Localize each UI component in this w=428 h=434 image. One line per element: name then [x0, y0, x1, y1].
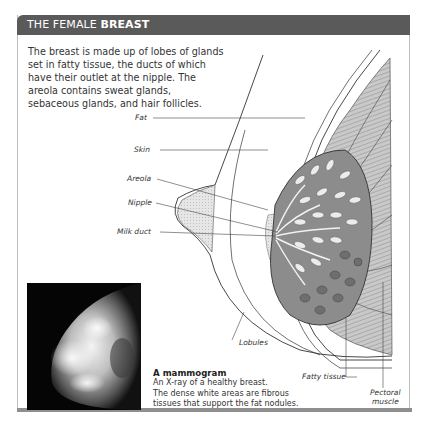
label-areola: Areola [127, 174, 151, 183]
label-milk-duct: Milk duct [117, 227, 151, 236]
caption-title: A mammogram [153, 368, 353, 378]
label-pectoral: Pectoral [370, 388, 401, 397]
label-skin: Skin [134, 145, 150, 154]
label-lobules: Lobules [239, 338, 268, 347]
mammogram-caption: A mammogram An X-ray of a healthy breast… [153, 368, 353, 410]
caption-line-2: The dense white areas are fibrous [153, 389, 353, 399]
label-nipple: Nipple [128, 198, 152, 207]
label-muscle: muscle [372, 397, 399, 406]
caption-line-1: An X-ray of a healthy breast. [153, 378, 353, 388]
mammogram-image [27, 283, 141, 410]
caption-line-3: tissues that support the fat nodules. [153, 399, 353, 409]
label-fat: Fat [135, 113, 147, 122]
